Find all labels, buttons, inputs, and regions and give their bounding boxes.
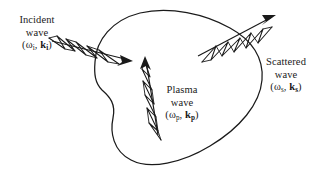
incident-omega-sub: i bbox=[33, 44, 35, 52]
scattered-wave-label: Scattered wave (ωs, ks) bbox=[248, 56, 324, 94]
incident-label-line2: wave bbox=[4, 27, 70, 40]
scattered-close-paren: ) bbox=[298, 81, 302, 92]
incident-k-sub: i bbox=[46, 44, 48, 52]
plasma-wave-label: Plasma wave (ωp, kp) bbox=[146, 84, 218, 122]
plasma-close-paren: ) bbox=[195, 109, 199, 120]
scattered-label-params: (ωs, ks) bbox=[248, 81, 324, 94]
incident-wave-label: Incident wave (ωi, ki) bbox=[4, 14, 70, 52]
incident-omega: ω bbox=[26, 39, 33, 50]
scattered-wave-arrow bbox=[198, 15, 276, 62]
plasma-label-line2: wave bbox=[146, 97, 218, 110]
plasma-omega-sub: p bbox=[176, 114, 180, 122]
plasma-omega: ω bbox=[169, 109, 176, 120]
scattered-omega: ω bbox=[274, 81, 281, 92]
scattered-omega-sub: s bbox=[281, 86, 284, 94]
plasma-k-sub: p bbox=[191, 114, 195, 122]
plasma-label-line1: Plasma bbox=[146, 84, 218, 97]
incident-label-params: (ωi, ki) bbox=[4, 39, 70, 52]
scattered-label-line1: Scattered bbox=[248, 56, 324, 69]
incident-label-line1: Incident bbox=[4, 14, 70, 27]
scattered-label-line2: wave bbox=[248, 69, 324, 82]
incident-close-paren: ) bbox=[48, 39, 52, 50]
figure-canvas: Incident wave (ωi, ki) Scattered wave (ω… bbox=[0, 0, 328, 179]
scattered-k-sub: s bbox=[295, 86, 298, 94]
plasma-label-params: (ωp, kp) bbox=[146, 109, 218, 122]
